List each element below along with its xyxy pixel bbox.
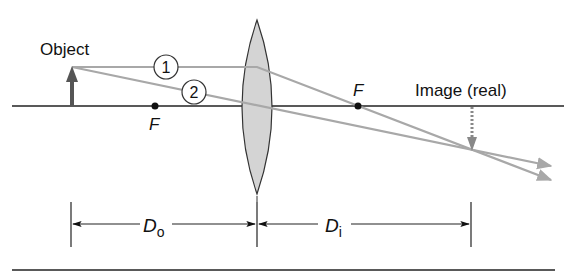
focal-point-left: [152, 103, 159, 110]
ray-1-number: 1: [162, 59, 171, 76]
object-label: Object: [40, 40, 89, 59]
focal-point-right: [355, 103, 362, 110]
focal-label-left: F: [149, 115, 161, 134]
ray-diagram: Object Image (real) F F 1 2 Do Di: [0, 0, 576, 280]
di-label: Di: [325, 215, 342, 240]
do-subscript: o: [157, 224, 165, 240]
image-label: Image (real): [415, 81, 507, 100]
ray-2-number: 2: [190, 84, 199, 101]
do-label: Do: [143, 215, 165, 240]
di-subscript: i: [339, 224, 342, 240]
focal-label-right: F: [353, 81, 365, 100]
